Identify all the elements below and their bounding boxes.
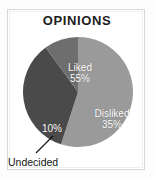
pie-label-disliked-name: Disliked <box>94 108 129 119</box>
pie-label-undecided-name: Undecided <box>8 156 58 168</box>
chart-image: OPINIONS Liked 55% Disliked 35% 10% Unde… <box>0 0 154 178</box>
pie-label-liked-value: 55% <box>58 73 102 84</box>
undecided-leader-line <box>36 136 53 153</box>
pie-svg <box>0 0 154 178</box>
pie-label-liked-name: Liked <box>68 62 92 73</box>
pie-label-disliked-value: 35% <box>88 119 136 130</box>
pie-chart <box>0 0 154 178</box>
pie-label-liked: Liked 55% <box>58 62 102 84</box>
pie-label-undecided-value: 10% <box>39 123 65 134</box>
pie-label-disliked: Disliked 35% <box>88 108 136 130</box>
